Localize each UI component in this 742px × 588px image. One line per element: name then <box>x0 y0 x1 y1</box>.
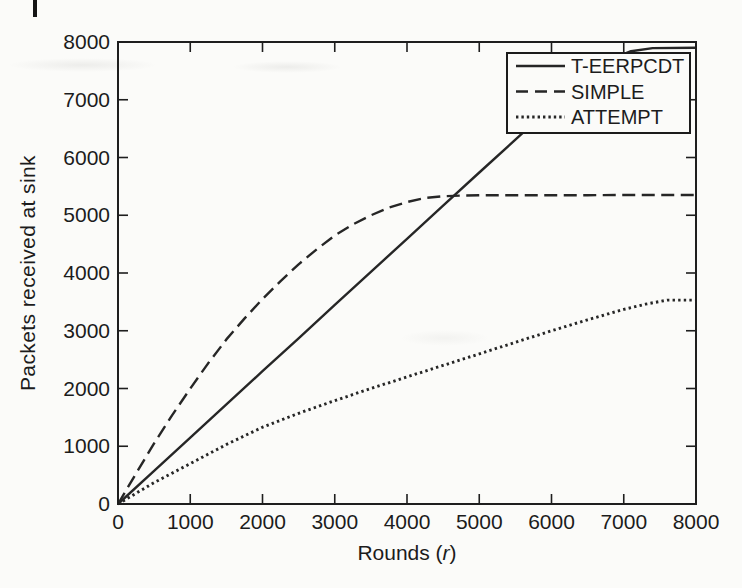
series-line-simple <box>118 195 696 504</box>
y-axis-label: Packets received at sink <box>16 155 40 391</box>
y-tick-label: 0 <box>98 492 110 515</box>
x-axis-label: Rounds (r) <box>118 541 696 565</box>
legend-label-simple: SIMPLE <box>571 81 644 103</box>
x-tick-label: 1000 <box>167 510 214 533</box>
y-tick-label: 7000 <box>63 88 110 111</box>
legend-label-attempt: ATTEMPT <box>571 106 663 128</box>
y-tick-label: 4000 <box>63 261 110 284</box>
y-axis-label-wrap: Packets received at sink <box>12 42 44 504</box>
y-tick-label: 8000 <box>63 30 110 53</box>
y-tick-label: 2000 <box>63 377 110 400</box>
x-tick-label: 2000 <box>239 510 286 533</box>
y-tick-label: 6000 <box>63 146 110 169</box>
x-tick-label: 8000 <box>673 510 720 533</box>
x-tick-label: 6000 <box>528 510 575 533</box>
x-tick-label: 0 <box>112 510 124 533</box>
scanned-figure-page: 0100020003000400050006000700080000100020… <box>0 0 742 588</box>
y-tick-label: 1000 <box>63 434 110 457</box>
legend-label-t-eerpcdt: T-EERPCDT <box>571 55 684 77</box>
x-axis-label-variable: r <box>443 541 450 564</box>
series-line-attempt <box>118 300 696 504</box>
y-tick-label: 3000 <box>63 319 110 342</box>
x-axis-label-suffix: ) <box>450 541 457 564</box>
x-tick-label: 7000 <box>600 510 647 533</box>
x-tick-label: 5000 <box>456 510 503 533</box>
x-tick-label: 4000 <box>384 510 431 533</box>
y-tick-label: 5000 <box>63 203 110 226</box>
x-axis-label-text: Rounds ( <box>357 541 442 564</box>
line-chart: 0100020003000400050006000700080000100020… <box>0 0 742 588</box>
x-tick-label: 3000 <box>311 510 358 533</box>
